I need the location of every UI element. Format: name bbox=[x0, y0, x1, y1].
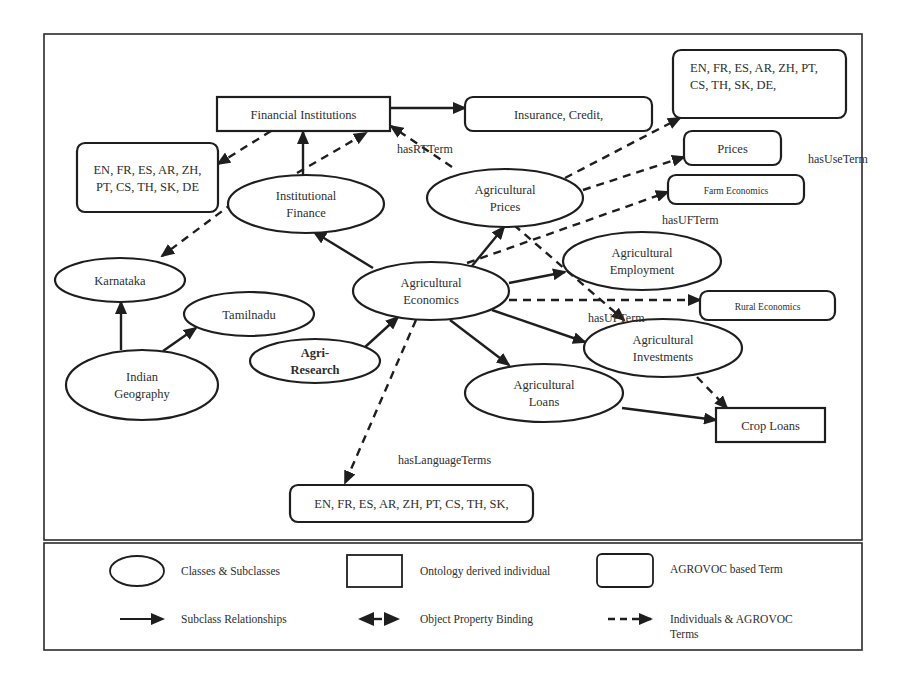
node-label: Agricultural bbox=[611, 246, 673, 260]
edge-label: hasUPTerm bbox=[588, 311, 645, 325]
node-institutional-finance: InstitutionalFinance bbox=[228, 175, 384, 233]
node-label: Prices bbox=[717, 142, 748, 156]
node-label: Insurance, Credit, bbox=[514, 108, 603, 122]
node-label: Farm Economics bbox=[704, 186, 769, 196]
node-label: Institutional bbox=[276, 189, 337, 203]
legend-label-class: Classes & Subclasses bbox=[181, 565, 281, 577]
legend-ellipse-icon bbox=[110, 556, 164, 586]
legend-rect-icon bbox=[347, 555, 402, 587]
node-agricultural-investments: AgriculturalInvestments bbox=[584, 319, 742, 377]
node-label: Tamilnadu bbox=[222, 308, 276, 322]
agrovoc-term-box bbox=[77, 143, 218, 212]
node-label: EN, FR, ES, AR, ZH, PT, CS, TH, SK, bbox=[314, 497, 508, 511]
class-ellipse bbox=[353, 262, 509, 320]
node-agricultural-employment: AgriculturalEmployment bbox=[563, 232, 721, 290]
node-label: Agri- bbox=[301, 346, 329, 360]
node-rural-economics: Rural Economics bbox=[700, 291, 835, 320]
node-indian-geography: IndianGeography bbox=[66, 350, 218, 420]
node-label: Crop Loans bbox=[741, 419, 800, 433]
node-agrovoc-langs-top: EN, FR, ES, AR, ZH, PT,CS, TH, SK, DE, bbox=[673, 50, 846, 118]
node-agrovoc-langs-left: EN, FR, ES, AR, ZH,PT, CS, TH, SK, DE bbox=[77, 143, 218, 212]
legend-label-agrovoc-link-1: Individuals & AGROVOC bbox=[670, 613, 793, 625]
legend-frame bbox=[44, 543, 862, 650]
node-agricultural-prices: AgriculturalPrices bbox=[427, 169, 583, 227]
node-label: Agricultural bbox=[474, 183, 536, 197]
class-ellipse bbox=[228, 175, 384, 233]
node-label: Karnataka bbox=[94, 274, 146, 288]
legend-item-class: Classes & Subclasses bbox=[110, 556, 281, 586]
class-ellipse bbox=[427, 169, 583, 227]
binding-arrow bbox=[297, 133, 366, 173]
node-label: CS, TH, SK, DE, bbox=[690, 78, 776, 92]
double-arrow-icon bbox=[358, 612, 400, 626]
edge-label: hasUseTerm bbox=[808, 152, 868, 166]
node-crop-loans: Crop Loans bbox=[716, 408, 825, 442]
node-label: EN, FR, ES, AR, ZH, bbox=[93, 163, 201, 177]
node-label: Agricultural bbox=[400, 276, 462, 290]
legend-item-agrovoc: AGROVOC based Term bbox=[597, 554, 783, 587]
node-agricultural-economics: AgriculturalEconomics bbox=[353, 262, 509, 320]
node-label: Employment bbox=[610, 263, 675, 277]
legend-label-individual: Ontology derived individual bbox=[420, 565, 550, 578]
node-label: Financial Institutions bbox=[251, 108, 357, 122]
node-prices: Prices bbox=[684, 131, 781, 165]
binding-arrow bbox=[697, 377, 727, 408]
node-label: Agricultural bbox=[632, 333, 694, 347]
node-agrovoc-langs-bottom: EN, FR, ES, AR, ZH, PT, CS, TH, SK, bbox=[290, 485, 533, 522]
node-label: Geography bbox=[114, 387, 170, 401]
node-agricultural-loans: AgriculturalLoans bbox=[465, 364, 623, 422]
subclass-arrow bbox=[492, 310, 585, 342]
node-label: Rural Economics bbox=[735, 302, 801, 312]
legend-item-subclass: Subclass Relationships bbox=[120, 613, 287, 626]
class-ellipse bbox=[584, 319, 742, 377]
legend-label-agrovoc: AGROVOC based Term bbox=[670, 563, 783, 575]
legend-label-subclass: Subclass Relationships bbox=[181, 613, 287, 626]
subclass-arrow bbox=[314, 232, 373, 268]
node-karnataka: Karnataka bbox=[55, 258, 185, 302]
class-ellipse bbox=[66, 350, 218, 420]
node-label: Economics bbox=[403, 293, 459, 307]
binding-arrow bbox=[218, 131, 271, 164]
edge-label: hasLanguageTerms bbox=[398, 453, 491, 467]
nodes-layer: Financial InstitutionsInsurance, Credit,… bbox=[55, 50, 846, 522]
edge-label: hasRTTerm bbox=[397, 142, 453, 156]
legend: Classes & Subclasses Ontology derived in… bbox=[110, 554, 793, 640]
node-insurance-credit: Insurance, Credit, bbox=[465, 97, 652, 131]
node-label: Research bbox=[290, 363, 339, 377]
node-financial-institutions: Financial Institutions bbox=[217, 97, 390, 131]
legend-label-agrovoc-link-2: Terms bbox=[670, 628, 699, 640]
class-ellipse bbox=[563, 232, 721, 290]
legend-item-binding: Object Property Binding bbox=[358, 612, 533, 626]
node-label: Agricultural bbox=[513, 378, 575, 392]
subclass-arrow bbox=[622, 408, 716, 420]
node-agri-research: Agri-Research bbox=[250, 339, 380, 383]
subclass-arrow bbox=[163, 328, 196, 351]
node-label: EN, FR, ES, AR, ZH, PT, bbox=[690, 61, 818, 75]
legend-item-individual: Ontology derived individual bbox=[347, 555, 550, 587]
node-label: Indian bbox=[126, 370, 159, 384]
legend-item-agrovoc-link: Individuals & AGROVOC Terms bbox=[608, 613, 793, 640]
node-farm-economics: Farm Economics bbox=[668, 175, 804, 204]
node-label: Finance bbox=[286, 206, 326, 220]
node-tamilnadu: Tamilnadu bbox=[184, 292, 314, 336]
subclass-arrow bbox=[472, 227, 504, 266]
node-label: Loans bbox=[529, 395, 560, 409]
ontology-diagram: Financial InstitutionsInsurance, Credit,… bbox=[0, 0, 923, 690]
node-label: Prices bbox=[490, 200, 521, 214]
node-label: PT, CS, TH, SK, DE bbox=[96, 180, 199, 194]
legend-label-binding: Object Property Binding bbox=[420, 613, 533, 626]
subclass-arrow bbox=[509, 272, 565, 283]
node-label: Investments bbox=[633, 350, 694, 364]
class-ellipse bbox=[465, 364, 623, 422]
subclass-arrow bbox=[364, 317, 398, 348]
subclass-arrow bbox=[450, 320, 509, 365]
legend-rounded-rect-icon bbox=[597, 554, 653, 587]
edge-label: hasUFTerm bbox=[662, 213, 719, 227]
